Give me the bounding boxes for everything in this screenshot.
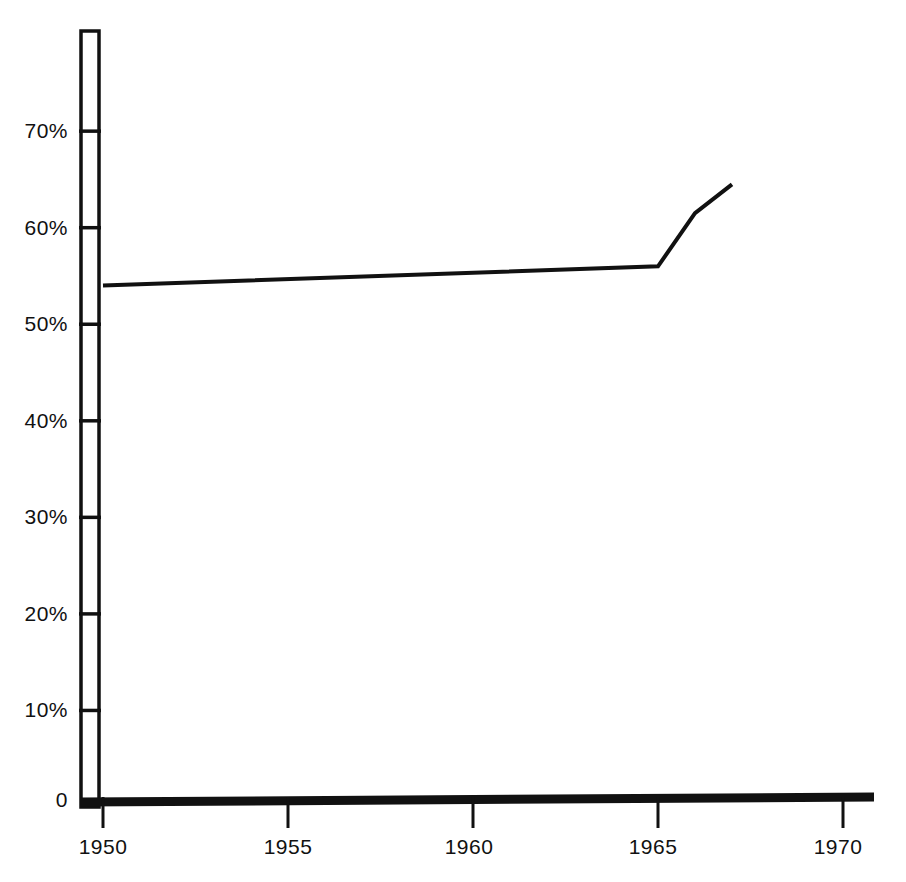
y-tick-label-50: 50% (6, 312, 68, 336)
x-tick-label-1950: 1950 (79, 835, 128, 859)
x-tick-label-1965: 1965 (629, 835, 678, 859)
y-axis-bar (81, 31, 99, 807)
y-tick-label-70: 70% (6, 119, 68, 143)
y-tick-label-0: 0 (6, 788, 68, 812)
data-series-line (103, 184, 732, 285)
chart-plot-area (0, 0, 906, 882)
x-axis-line (81, 797, 874, 802)
y-tick-label-20: 20% (6, 602, 68, 626)
x-tick-label-1960: 1960 (445, 835, 494, 859)
y-tick-label-60: 60% (6, 216, 68, 240)
y-tick-label-40: 40% (6, 409, 68, 433)
y-tick-label-30: 30% (6, 505, 68, 529)
y-tick-label-10: 10% (6, 698, 68, 722)
x-tick-label-1955: 1955 (264, 835, 313, 859)
x-tick-label-1970: 1970 (814, 835, 863, 859)
line-chart: 70% 60% 50% 40% 30% 20% 10% 0 1950 1955 … (0, 0, 906, 882)
